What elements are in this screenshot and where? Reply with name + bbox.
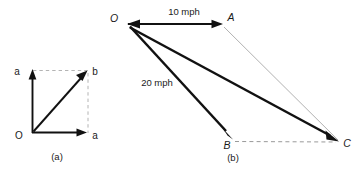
panel-a-horizontal-arrowhead <box>77 129 88 137</box>
panel-b-label-speed-ob: 20 mph <box>141 77 173 88</box>
panel-b-group: 10 mph 20 mph O A B C (b) <box>110 6 351 163</box>
panel-a-label-vertical-a: a <box>14 66 20 77</box>
figure-canvas: a b O a (a) 10 mph 20 mph <box>0 0 362 170</box>
panel-b-caption: (b) <box>227 152 239 163</box>
panel-a-label-horizontal-a: a <box>92 130 98 141</box>
vector-diagram-svg: a b O a (a) 10 mph 20 mph <box>0 0 362 170</box>
panel-b-oc-arrowhead <box>326 131 340 142</box>
panel-b-label-point-c: C <box>343 137 351 149</box>
panel-b-ac-hairline <box>224 27 338 140</box>
panel-a-group: a b O a (a) <box>14 66 98 162</box>
panel-a-caption: (a) <box>51 151 63 162</box>
panel-a-diagonal-arrowhead <box>76 71 88 82</box>
panel-a-diagonal-vector <box>34 78 82 132</box>
panel-b-oa-arrowhead <box>212 20 224 28</box>
panel-b-label-point-b: B <box>223 139 230 151</box>
panel-b-label-speed-oa: 10 mph <box>168 6 200 17</box>
panel-a-label-origin: O <box>15 130 23 141</box>
panel-b-label-point-a: A <box>226 11 234 23</box>
panel-a-label-diagonal-b: b <box>92 66 98 77</box>
panel-b-ob-arrowhead <box>222 128 233 140</box>
panel-b-bc-dashed-line <box>235 142 336 143</box>
panel-b-origin-arrowhead <box>127 20 140 29</box>
panel-b-label-origin: O <box>110 12 118 24</box>
